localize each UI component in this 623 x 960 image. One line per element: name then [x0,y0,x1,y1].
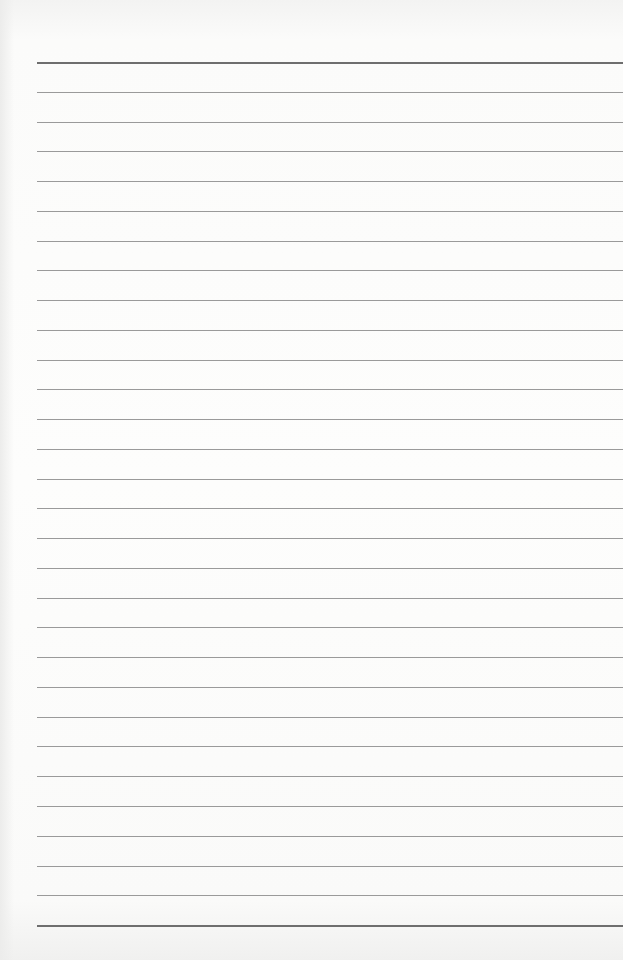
ruled-line [37,181,623,182]
ruled-line [37,241,623,242]
ruled-line [37,211,623,212]
ruled-line [37,389,623,390]
ruled-line [37,360,623,361]
ruled-line [37,479,623,480]
ruled-line [37,330,623,331]
ruled-line [37,538,623,539]
ruled-line [37,419,623,420]
ruled-line [37,895,623,896]
ruled-paper-page [0,0,623,960]
ruled-line [37,568,623,569]
ruled-line [37,687,623,688]
ruled-line [37,925,623,927]
ruled-line [37,508,623,509]
ruled-line [37,151,623,152]
ruled-line [37,746,623,747]
ruled-line [37,866,623,867]
ruled-line [37,806,623,807]
ruled-line [37,122,623,123]
ruled-line [37,598,623,599]
ruled-line [37,776,623,777]
ruled-line [37,300,623,301]
ruled-line [37,92,623,93]
ruled-line [37,627,623,628]
ruled-line [37,657,623,658]
ruled-line [37,836,623,837]
ruled-line [37,449,623,450]
ruled-line [37,62,623,64]
ruled-line [37,717,623,718]
ruled-line [37,270,623,271]
